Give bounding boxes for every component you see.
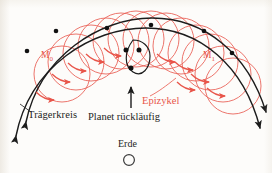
leader-line-epizykel (150, 78, 176, 96)
label-epizykel: Epizykel (142, 96, 179, 107)
label-erde: Erde (118, 139, 137, 149)
planet-marker (105, 26, 110, 31)
label-traegerkreis: Trägerkreis (28, 110, 77, 121)
planet-marker (149, 23, 154, 28)
epicycle-diagram-page: Trägerkreis Planet rückläufig Epizykel E… (0, 0, 272, 173)
label-planet-ruecklaeufig: Planet rückläufig (88, 112, 160, 123)
planet-marker (137, 48, 142, 53)
epicycle-direction-arrow (68, 63, 86, 71)
epicycle-circle (153, 18, 209, 74)
label-m1-subscript: 1 (211, 55, 215, 63)
planet-marker (202, 29, 207, 34)
planet-marker (124, 48, 129, 53)
earth-circle-symbol (124, 155, 135, 166)
planet-marker (129, 66, 134, 71)
planet-marker (25, 49, 30, 54)
epicycle-direction-arrow (157, 54, 175, 62)
label-m0-subscript: 0 (49, 55, 53, 63)
label-m1: M1 (203, 51, 215, 63)
label-m0: M0 (41, 51, 53, 63)
planet-marker (230, 51, 235, 56)
planet-marker (54, 29, 59, 34)
